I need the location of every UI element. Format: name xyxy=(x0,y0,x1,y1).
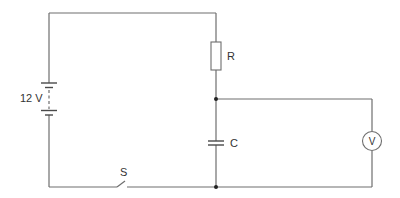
wires xyxy=(49,13,372,187)
battery-label: 12 V xyxy=(20,92,43,104)
junction-dot-bottom xyxy=(214,185,218,189)
resistor-label: R xyxy=(227,50,235,62)
voltmeter: V xyxy=(363,132,382,151)
capacitor-label: C xyxy=(230,137,238,149)
resistor: R xyxy=(211,42,235,70)
circuit-diagram: 12 V R C S V xyxy=(0,0,400,198)
battery: 12 V xyxy=(20,83,57,115)
switch-blade xyxy=(117,181,125,187)
junction-dot-top xyxy=(214,97,218,101)
switch-label: S xyxy=(120,166,127,178)
capacitor: C xyxy=(208,137,238,149)
voltmeter-label: V xyxy=(369,136,376,147)
resistor-body xyxy=(211,42,221,70)
switch: S xyxy=(117,166,127,187)
